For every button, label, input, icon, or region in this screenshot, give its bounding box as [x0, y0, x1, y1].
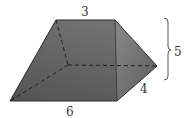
prism-diagram: 3 6 4 5 — [0, 0, 192, 118]
front-face — [10, 20, 117, 101]
top-edge-label: 3 — [81, 5, 89, 19]
right-face — [115, 20, 157, 101]
depth-edge-label: 4 — [140, 82, 148, 96]
height-label: 5 — [174, 45, 182, 59]
bottom-edge-label: 6 — [66, 105, 74, 118]
height-brace — [164, 18, 171, 80]
